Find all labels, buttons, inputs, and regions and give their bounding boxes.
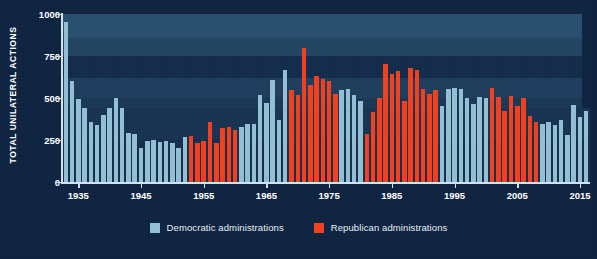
bar-republican bbox=[515, 106, 520, 182]
chart-container: TOTAL UNILATERAL ACTIONS 02505007501000 … bbox=[0, 0, 597, 259]
bar-democratic bbox=[245, 124, 250, 182]
bar-democratic bbox=[76, 99, 81, 182]
bar-republican bbox=[521, 98, 526, 182]
bar-democratic bbox=[546, 122, 551, 182]
bar-republican bbox=[390, 74, 395, 182]
x-tick-label: 2005 bbox=[507, 190, 528, 201]
bar-democratic bbox=[132, 134, 137, 182]
x-tick-mark bbox=[580, 183, 581, 188]
x-tick-mark bbox=[329, 183, 330, 188]
bar-republican bbox=[427, 94, 432, 182]
bar-republican bbox=[402, 101, 407, 182]
bar-democratic bbox=[559, 120, 564, 182]
bar-democratic bbox=[126, 133, 131, 182]
bar-republican bbox=[308, 85, 313, 182]
bar-democratic bbox=[283, 70, 288, 182]
legend-item-democratic: Democratic administrations bbox=[150, 222, 284, 233]
bar-democratic bbox=[114, 98, 119, 182]
x-tick-label: 1975 bbox=[319, 190, 340, 201]
x-tick-label: 1955 bbox=[193, 190, 214, 201]
x-tick-label: 1985 bbox=[381, 190, 402, 201]
x-tick-mark bbox=[266, 183, 267, 188]
bar-republican bbox=[189, 136, 194, 182]
plot-area bbox=[62, 14, 590, 182]
bar-democratic bbox=[477, 97, 482, 182]
bar-republican bbox=[208, 122, 213, 182]
bar-republican bbox=[421, 89, 426, 182]
bar-democratic bbox=[270, 80, 275, 182]
bar-republican bbox=[314, 76, 319, 182]
bar-democratic bbox=[258, 95, 263, 182]
bar-republican bbox=[201, 141, 206, 182]
bar-democratic bbox=[239, 127, 244, 182]
y-tick-label: 250 bbox=[26, 135, 60, 146]
x-tick-label: 1965 bbox=[256, 190, 277, 201]
x-tick-mark bbox=[517, 183, 518, 188]
bar-democratic bbox=[584, 111, 589, 182]
bar-republican bbox=[195, 143, 200, 182]
bar-democratic bbox=[120, 108, 125, 182]
y-axis-title-text: TOTAL UNILATERAL ACTIONS bbox=[8, 27, 18, 164]
band-right-trim bbox=[582, 14, 590, 108]
bar-democratic bbox=[553, 125, 558, 182]
bar-democratic bbox=[101, 115, 106, 182]
bar-democratic bbox=[352, 95, 357, 182]
bar-democratic bbox=[151, 140, 156, 182]
y-tick-label: 500 bbox=[26, 93, 60, 104]
y-tick-mark bbox=[56, 98, 62, 99]
bar-republican bbox=[502, 111, 507, 182]
bar-democratic bbox=[170, 143, 175, 182]
bar-republican bbox=[528, 116, 533, 182]
legend-label-democratic: Democratic administrations bbox=[167, 222, 284, 233]
chart-legend: Democratic administrations Republican ad… bbox=[0, 222, 597, 233]
bar-democratic bbox=[70, 81, 75, 182]
bar-democratic bbox=[440, 106, 445, 182]
bar-republican bbox=[534, 122, 539, 182]
bar-democratic bbox=[164, 141, 169, 182]
bar-democratic bbox=[252, 124, 257, 182]
x-tick-label: 1935 bbox=[68, 190, 89, 201]
bar-republican bbox=[302, 48, 307, 182]
bar-republican bbox=[396, 71, 401, 182]
background-band bbox=[62, 14, 590, 38]
bar-democratic bbox=[145, 141, 150, 182]
y-tick-label: 1000 bbox=[26, 9, 60, 20]
bar-democratic bbox=[459, 89, 464, 182]
bar-democratic bbox=[158, 142, 163, 182]
bar-democratic bbox=[139, 148, 144, 182]
bar-democratic bbox=[446, 89, 451, 182]
bar-democratic bbox=[452, 88, 457, 182]
x-tick-label: 2015 bbox=[569, 190, 590, 201]
bar-democratic bbox=[183, 137, 188, 182]
bar-republican bbox=[333, 94, 338, 182]
bar-republican bbox=[227, 127, 232, 182]
x-tick-label: 1945 bbox=[130, 190, 151, 201]
y-tick-label: 750 bbox=[26, 51, 60, 62]
bar-democratic bbox=[277, 120, 282, 182]
bar-democratic bbox=[540, 124, 545, 182]
bar-republican bbox=[509, 96, 514, 182]
bar-democratic bbox=[64, 22, 69, 182]
legend-item-republican: Republican administrations bbox=[314, 222, 448, 233]
bar-republican bbox=[490, 88, 495, 182]
bar-republican bbox=[415, 70, 420, 182]
bar-democratic bbox=[176, 148, 181, 182]
bar-republican bbox=[408, 68, 413, 182]
x-tick-label: 1995 bbox=[444, 190, 465, 201]
x-tick-mark bbox=[78, 183, 79, 188]
bar-republican bbox=[371, 112, 376, 182]
background-band bbox=[62, 38, 590, 56]
bar-democratic bbox=[571, 105, 576, 182]
bar-republican bbox=[496, 97, 501, 182]
legend-label-republican: Republican administrations bbox=[331, 222, 448, 233]
bar-democratic bbox=[578, 117, 583, 182]
x-tick-mark bbox=[392, 183, 393, 188]
bar-democratic bbox=[346, 89, 351, 182]
bar-republican bbox=[233, 130, 238, 182]
bar-republican bbox=[214, 143, 219, 182]
y-tick-mark bbox=[56, 140, 62, 141]
bar-republican bbox=[289, 90, 294, 182]
bar-republican bbox=[377, 98, 382, 182]
y-tick-label: 0 bbox=[26, 177, 60, 188]
y-tick-mark bbox=[56, 14, 62, 15]
